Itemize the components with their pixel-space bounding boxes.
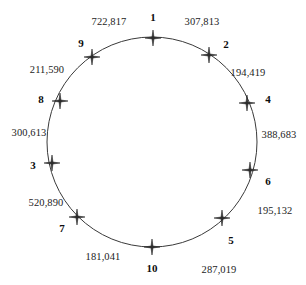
node-marker <box>201 47 217 63</box>
node-label-10: 10 <box>146 263 157 274</box>
node-marker <box>44 155 60 171</box>
node-marker <box>242 162 258 178</box>
value-label-8: 211,590 <box>30 65 64 76</box>
node-marker <box>239 95 255 111</box>
value-label-10: 181,041 <box>86 252 121 263</box>
node-marker <box>144 239 160 255</box>
value-label-7: 520,890 <box>29 198 64 209</box>
node-marker <box>145 30 161 46</box>
node-label-2: 2 <box>223 39 229 50</box>
value-label-5: 287,019 <box>202 265 237 276</box>
node-label-5: 5 <box>228 235 234 246</box>
value-label-9: 722,817 <box>92 17 127 28</box>
node-marker <box>214 210 230 226</box>
node-label-3: 3 <box>30 160 36 171</box>
node-marker-layer <box>44 30 258 255</box>
node-label-6: 6 <box>265 176 271 187</box>
node-label-1: 1 <box>150 12 156 23</box>
node-marker <box>69 209 85 225</box>
circular-diagram: 1307,8132194,4194388,6836195,1325287,019… <box>0 0 306 285</box>
value-label-3: 300,613 <box>12 128 47 139</box>
node-label-9: 9 <box>78 38 84 49</box>
diagram-canvas <box>0 0 306 285</box>
value-label-1: 307,813 <box>185 17 220 28</box>
circle-outline <box>47 37 257 247</box>
node-label-4: 4 <box>265 94 271 105</box>
node-label-7: 7 <box>59 223 65 234</box>
value-label-4: 388,683 <box>262 130 297 141</box>
node-label-8: 8 <box>38 94 44 105</box>
value-label-2: 194,419 <box>231 68 266 79</box>
node-marker <box>84 49 100 65</box>
value-label-6: 195,132 <box>258 206 293 217</box>
node-marker <box>52 93 68 109</box>
